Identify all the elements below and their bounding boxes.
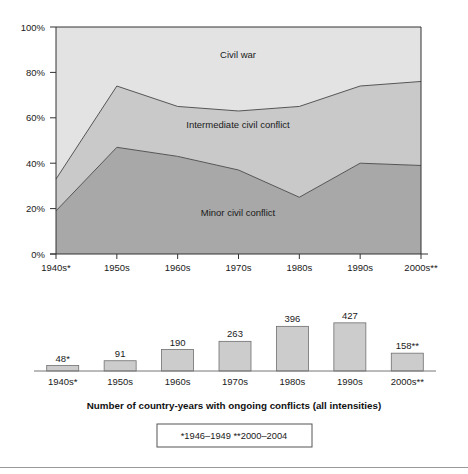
area-y-tick-label: 20% [26,203,46,214]
bar-chart-value-label: 48* [56,353,71,364]
bar-chart-value-label: 190 [170,337,186,348]
bar-chart-bar [391,353,423,371]
bar-chart-value-label: 427 [342,310,358,321]
bar-chart-value-label: 263 [227,328,243,339]
footnote-box: *1946–1949 **2000–2004 [157,424,312,447]
area-x-tick-label: 1950s [104,262,130,273]
bar-chart-bar [219,341,251,371]
area-y-axis-ticks: 0%20%40%60%80%100% [21,22,56,260]
bar-chart-bar [162,350,194,371]
area-x-tick-label: 1980s [286,262,312,273]
conflict-figure-svg: 0%20%40%60%80%100% 1940s*1950s1960s1970s… [0,0,468,474]
bar-chart-bar [334,323,366,371]
area-x-tick-label: 1940s* [41,262,71,273]
area-y-tick-label: 0% [31,249,45,260]
area-chart: 0%20%40%60%80%100% 1940s*1950s1960s1970s… [21,22,438,274]
bar-chart-category-label: 2000s** [391,376,425,387]
bar-chart-category-label: 1970s [222,376,248,387]
bar-chart-category-label: 1980s [279,376,305,387]
bar-chart-bar [47,366,79,371]
bar-chart-value-label: 158** [396,340,420,351]
bar-chart-category-label: 1960s [165,376,191,387]
area-label-minor-civil-conflict: Minor civil conflict [201,207,276,218]
area-x-tick-label: 2000s** [404,262,438,273]
bar-chart-x-axis-labels: 1940s*1950s1960s1970s1980s1990s2000s** [48,376,424,387]
bar-chart-category-label: 1940s* [48,376,78,387]
area-bands [56,27,421,254]
bar-chart-value-label: 91 [115,348,126,359]
bar-chart-bar [104,361,136,371]
area-x-tick-label: 1990s [347,262,373,273]
bar-chart: 48*91190263396427158** 1940s*1950s1960s1… [34,310,436,387]
figure-container: 0%20%40%60%80%100% 1940s*1950s1960s1970s… [0,0,468,474]
area-label-civil-war: Civil war [220,49,256,60]
page-bottom-rule [0,467,468,468]
area-label-intermediate-civil-conflict: Intermediate civil conflict [186,119,290,130]
area-y-tick-label: 60% [26,112,46,123]
bar-chart-bar [276,326,308,371]
figure-caption: Number of country-years with ongoing con… [87,400,381,411]
area-y-tick-label: 40% [26,158,46,169]
area-y-tick-label: 80% [26,67,46,78]
bar-chart-value-label: 396 [284,313,300,324]
footnote-text: *1946–1949 **2000–2004 [181,431,288,441]
bar-chart-category-label: 1950s [107,376,133,387]
bar-chart-category-label: 1990s [337,376,363,387]
area-x-tick-label: 1970s [226,262,252,273]
area-x-axis-ticks: 1940s*1950s1960s1970s1980s1990s2000s** [41,254,438,273]
area-x-tick-label: 1960s [165,262,191,273]
area-y-tick-label: 100% [21,22,46,33]
